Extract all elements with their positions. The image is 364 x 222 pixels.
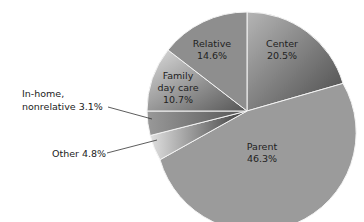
leader-line-other [107, 140, 157, 153]
label-parent-pct: 46.3% [247, 153, 277, 164]
label-inhome-line2: nonrelative 3.1% [22, 101, 103, 112]
pie-chart: Center 20.5% Relative 14.6% Family day c… [0, 0, 364, 222]
label-inhome-line1: In-home, [22, 88, 64, 99]
label-family-line1: Family [163, 70, 194, 81]
label-center-pct: 20.5% [267, 50, 297, 61]
label-family-pct: 10.7% [163, 94, 193, 105]
label-relative-name: Relative [193, 38, 231, 49]
label-family-line2: day care [157, 82, 198, 93]
label-parent-name: Parent [247, 141, 278, 152]
label-relative-pct: 14.6% [197, 50, 227, 61]
label-center-name: Center [266, 38, 298, 49]
label-other: Other 4.8% [52, 148, 106, 159]
leader-line-inhome [108, 107, 152, 119]
